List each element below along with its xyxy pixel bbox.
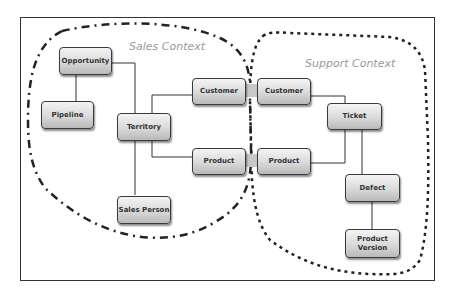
node-ticket[interactable]: Ticket (327, 103, 382, 130)
node-defect[interactable]: Defect (345, 174, 400, 202)
node-sales-person[interactable]: Sales Person (117, 196, 171, 224)
sales-context-label: Sales Context (129, 40, 205, 53)
node-product-version[interactable]: Product Version (345, 229, 400, 258)
node-support-product[interactable]: Product (257, 148, 311, 175)
node-territory[interactable]: Territory (117, 113, 171, 141)
node-pipeline[interactable]: Pipeline (41, 101, 94, 129)
node-opportunity[interactable]: Opportunity (59, 47, 112, 75)
support-context-label: Support Context (305, 57, 395, 70)
node-sales-product[interactable]: Product (192, 148, 246, 175)
node-support-customer[interactable]: Customer (257, 78, 311, 105)
node-sales-customer[interactable]: Customer (192, 78, 246, 105)
